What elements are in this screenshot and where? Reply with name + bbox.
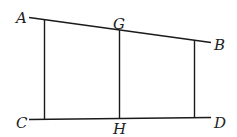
point-label-c: C	[16, 114, 28, 132]
geometry-diagram: A G B C H D	[0, 0, 237, 137]
point-label-h: H	[112, 120, 127, 137]
point-label-d: D	[213, 114, 226, 132]
point-label-g: G	[113, 15, 125, 33]
point-label-b: B	[213, 36, 225, 54]
point-label-a: A	[14, 9, 27, 27]
